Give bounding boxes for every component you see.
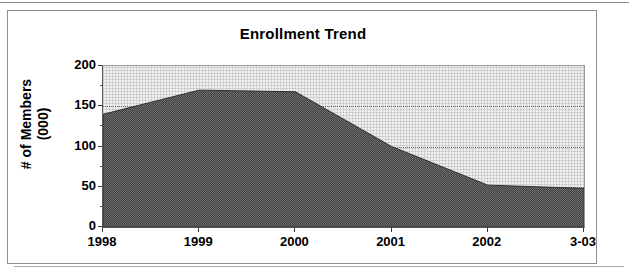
plot-area (102, 65, 585, 228)
x-tick-label-1998: 1998 (67, 234, 137, 249)
x-tick-label-2002: 2002 (452, 234, 522, 249)
y-tick-label-150: 150 (50, 97, 96, 112)
y-tick-label-0: 0 (50, 218, 96, 233)
x-tick-label-3-03: 3-03 (548, 234, 618, 249)
y-axis-title-line-2: (000) (35, 59, 52, 189)
chart-title: Enrollment Trend (8, 25, 598, 42)
x-tick-label-1999: 1999 (163, 234, 233, 249)
scan-rule-top (0, 2, 629, 3)
y-tick-label-50: 50 (50, 178, 96, 193)
y-tick-label-100: 100 (50, 138, 96, 153)
area-series (103, 66, 584, 227)
x-tick-label-2001: 2001 (356, 234, 426, 249)
x-tick-label-2000: 2000 (259, 234, 329, 249)
y-axis-title: # of Members (000) (18, 59, 52, 189)
area-series-path (103, 90, 584, 227)
chart-frame: Enrollment Trend # of Members (000) 0501… (7, 10, 597, 264)
y-tick-label-200: 200 (50, 57, 96, 72)
scan-rule-bottom (14, 266, 624, 267)
y-axis-title-line-1: # of Members (18, 59, 35, 189)
